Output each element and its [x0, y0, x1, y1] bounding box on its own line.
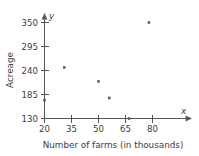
x-axis: x [45, 106, 193, 121]
y-axis-arrow-icon [42, 13, 48, 19]
y-tick-label: 240 [22, 66, 38, 76]
y-axis: y [42, 11, 55, 119]
scatter-plot-figure: y x 350 295 240 185 130 20 35 [0, 0, 199, 156]
data-point [108, 97, 111, 100]
x-tick-label: 80 [147, 124, 158, 134]
x-axis-title: Number of farms (in thousands) [43, 140, 184, 150]
y-tick-label: 130 [22, 114, 38, 124]
y-tick-label: 295 [22, 42, 38, 52]
x-tick-label: 35 [66, 124, 77, 134]
data-point [148, 21, 151, 24]
data-point [43, 99, 46, 102]
x-tick-label: 65 [120, 124, 131, 134]
data-point [63, 66, 66, 69]
x-tick-label: 50 [93, 124, 104, 134]
y-tick-label: 185 [22, 90, 38, 100]
x-tick-label: 20 [39, 124, 50, 134]
plot-canvas: y x 350 295 240 185 130 20 35 [0, 0, 199, 156]
data-point-group [43, 21, 150, 120]
y-axis-name-label: y [48, 11, 55, 21]
x-axis-arrow-icon [186, 116, 192, 122]
data-point [97, 80, 100, 83]
x-tick-group: 20 35 50 65 80 [39, 115, 158, 135]
y-tick-label: 350 [22, 18, 38, 28]
y-axis-title: Acreage [5, 52, 15, 88]
x-axis-name-label: x [180, 106, 187, 116]
data-point [128, 117, 131, 120]
